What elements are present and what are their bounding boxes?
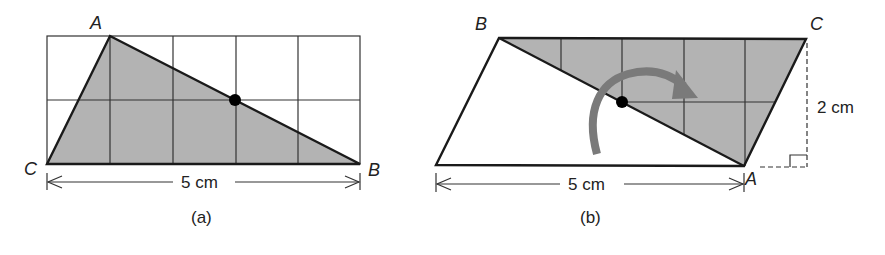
caption-a: (a) <box>191 208 212 227</box>
caption-b: (b) <box>580 208 601 227</box>
vertex-label-c: C <box>24 159 38 179</box>
figure-a: A C B 5 cm (a) <box>24 13 380 227</box>
right-angle-marker <box>790 155 807 167</box>
midpoint-dot <box>616 96 628 108</box>
vertex-label-b: B <box>475 14 487 34</box>
width-label: 5 cm <box>181 173 218 192</box>
vertex-label-c: C <box>810 14 824 34</box>
height-label: 2 cm <box>817 98 854 117</box>
vertex-label-a: A <box>89 13 102 33</box>
vertex-label-a: A <box>744 169 757 189</box>
vertex-label-b: B <box>368 160 380 180</box>
width-label: 5 cm <box>568 175 605 194</box>
midpoint-dot <box>229 94 241 106</box>
diagram-canvas: A C B 5 cm (a) B C A <box>0 0 885 255</box>
figure-b: B C A 2 cm 5 cm (b) <box>436 14 854 227</box>
